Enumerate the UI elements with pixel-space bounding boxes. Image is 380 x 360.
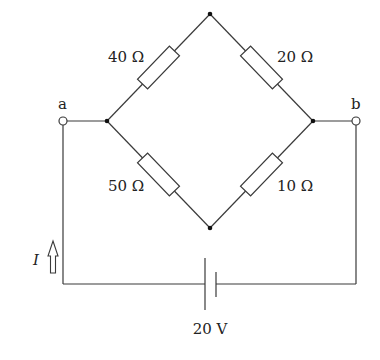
right-node	[311, 119, 316, 124]
top-node	[208, 12, 213, 17]
resistor-label-40: 40 Ω	[108, 48, 144, 66]
resistor-label-10: 10 Ω	[277, 177, 313, 195]
terminal-wires	[63, 121, 356, 284]
bottom-node	[208, 226, 213, 231]
circuit-diagram: 40 Ω 20 Ω 50 Ω 10 Ω a b I 20 V	[0, 0, 380, 360]
left-node	[105, 119, 110, 124]
terminal-label-b: b	[351, 95, 361, 113]
resistor-label-20: 20 Ω	[277, 48, 313, 66]
current-arrow-icon	[48, 241, 58, 273]
bridge-wires	[107, 14, 313, 228]
source-voltage-label: 20 V	[193, 320, 229, 338]
terminal-a	[59, 117, 67, 125]
terminal-label-a: a	[58, 95, 67, 113]
resistor-label-50: 50 Ω	[108, 177, 144, 195]
terminal-b	[352, 117, 360, 125]
battery-icon	[205, 258, 216, 310]
current-label: I	[32, 251, 40, 269]
